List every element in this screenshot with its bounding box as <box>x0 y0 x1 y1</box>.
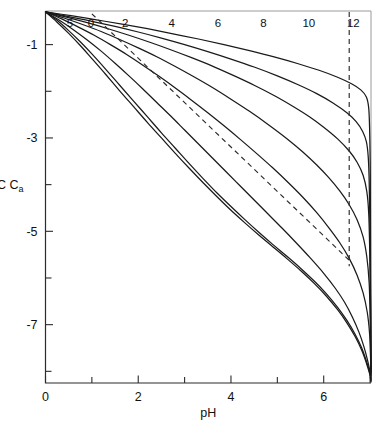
axis-frame <box>46 11 372 383</box>
curves-group <box>46 12 372 382</box>
plot-border <box>46 11 372 383</box>
curve-label-0: 0 <box>88 17 94 29</box>
figure-root: -1-3-5-702465024681012pHlog C Ca <box>0 0 389 437</box>
data-curve-2 <box>46 12 372 380</box>
data-curve-4 <box>46 12 372 378</box>
data-curve-12 <box>46 12 372 369</box>
y-axis-tick-label: -5 <box>26 225 37 239</box>
y-axis-tick-label: -3 <box>26 131 37 145</box>
curve-label-8: 8 <box>260 17 266 29</box>
data-curve-6 <box>46 12 372 376</box>
chart-canvas: -1-3-5-702465024681012pHlog C Ca <box>0 0 389 437</box>
x-axis-title: pH <box>200 406 216 420</box>
curve-label-4: 4 <box>168 17 175 29</box>
y-axis-tick-label: -1 <box>26 38 37 52</box>
annotations-group <box>92 12 349 266</box>
y-axis-title-subscript: a <box>18 184 23 194</box>
curve-label-6: 6 <box>215 17 221 29</box>
curve-label-10: 10 <box>302 17 315 29</box>
y-axis-tick-label: -7 <box>26 318 37 332</box>
data-curve-8 <box>46 12 372 374</box>
y-axis-title: log C Ca <box>0 178 24 195</box>
data-curve-0 <box>46 12 372 381</box>
diagonal-dashed-line <box>92 14 349 260</box>
data-curve-5 <box>46 12 372 382</box>
data-curve-10 <box>46 12 372 371</box>
x-axis-tick-label: 0 <box>42 390 49 404</box>
x-axis-tick-label: 6 <box>320 390 327 404</box>
labels-group: -1-3-5-702465024681012pHlog C Ca <box>0 17 360 420</box>
curve-label-12: 12 <box>347 17 360 29</box>
curve-label-2: 2 <box>122 17 128 29</box>
x-axis-tick-label: 2 <box>135 390 142 404</box>
curve-label-5: 5 <box>67 17 73 29</box>
x-axis-tick-label: 4 <box>227 390 234 404</box>
axes-group <box>46 11 372 383</box>
